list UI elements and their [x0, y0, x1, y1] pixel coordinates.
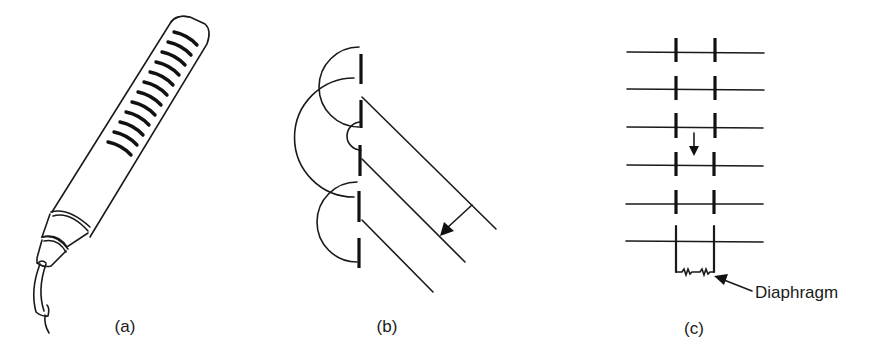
tube-wall-right: [714, 38, 715, 272]
collar-ring-1: [51, 211, 90, 227]
diffracted-wavelets: [295, 47, 361, 262]
panel-b-label: (b): [377, 317, 398, 336]
diaphragm-label: Diaphragm: [755, 283, 838, 302]
propagation-arrow: [440, 205, 472, 236]
panel-c-label: (c): [684, 319, 704, 338]
diaphragm-element: [676, 269, 714, 275]
figure-canvas: (a) (b): [0, 0, 884, 357]
slotted-wall: [359, 54, 361, 268]
panel-c-acoustic-line: Diaphragm (c): [626, 38, 838, 338]
microphone-cap: [171, 16, 189, 22]
collar-ring-2: [53, 215, 88, 231]
panel-b-diffraction: (b): [295, 47, 496, 336]
panel-a-microphone: (a): [34, 16, 209, 336]
microphone-tip: [37, 240, 66, 267]
pressure-arrow: [689, 133, 699, 156]
panel-a-label: (a): [115, 317, 136, 336]
incident-wave-lines: [362, 97, 496, 292]
diaphragm-callout: [714, 274, 752, 291]
cable: [34, 261, 49, 333]
